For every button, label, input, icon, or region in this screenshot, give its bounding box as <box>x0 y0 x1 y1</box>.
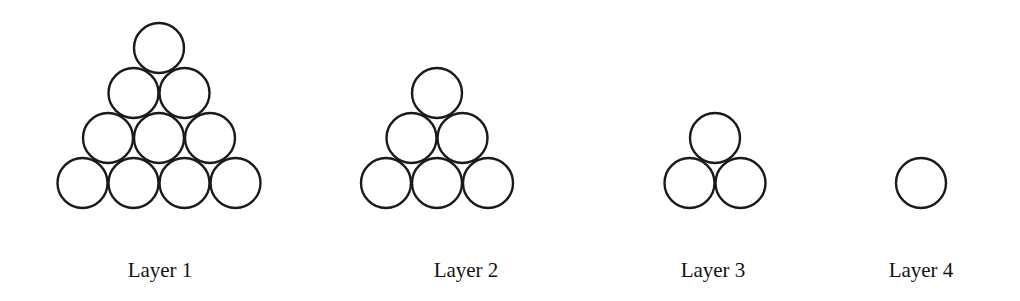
sphere-circle <box>463 158 513 208</box>
sphere-circle <box>109 158 159 208</box>
layer-3-stack <box>665 113 766 208</box>
sphere-layers-diagram <box>0 0 1020 301</box>
sphere-circle <box>160 158 210 208</box>
layer-2-stack <box>361 68 513 208</box>
sphere-circle <box>690 113 740 163</box>
sphere-circle <box>438 113 488 163</box>
sphere-circle <box>185 113 235 163</box>
layer-1-label: Layer 1 <box>128 258 193 283</box>
sphere-circle <box>134 23 184 73</box>
layer-4-stack <box>896 158 946 208</box>
sphere-circle <box>412 158 462 208</box>
sphere-circle <box>665 158 715 208</box>
sphere-circle <box>134 113 184 163</box>
sphere-circle <box>83 113 133 163</box>
sphere-circle <box>58 158 108 208</box>
sphere-circle <box>412 68 462 118</box>
layer-4-label: Layer 4 <box>889 258 954 283</box>
sphere-circle <box>211 158 261 208</box>
layer-3-label: Layer 3 <box>681 258 746 283</box>
sphere-circle <box>716 158 766 208</box>
layer-1-stack <box>58 23 261 208</box>
sphere-circle <box>160 68 210 118</box>
sphere-circle <box>896 158 946 208</box>
sphere-circle <box>109 68 159 118</box>
sphere-circle <box>387 113 437 163</box>
sphere-circle <box>361 158 411 208</box>
layer-2-label: Layer 2 <box>434 258 499 283</box>
